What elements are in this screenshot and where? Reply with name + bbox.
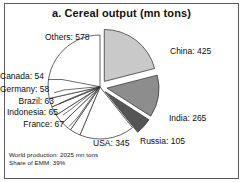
pie-label-china: China: 425 (170, 47, 211, 56)
pie-slice-china (104, 29, 154, 81)
footnote-world-production: World production: 2025 mn tons (9, 151, 98, 159)
pie-label-canada: Canada: 54 (0, 72, 43, 81)
pie-label-germany: Germany: 58 (0, 85, 49, 94)
pie-label-russia: Russia: 105 (140, 137, 185, 146)
chart-footnotes: World production: 2025 mn tons Share of … (9, 151, 98, 168)
pie-label-brazil: Brazil: 63 (0, 97, 54, 106)
pie-slices (48, 29, 159, 139)
pie-label-france: France: 67 (0, 120, 64, 129)
chart-panel: a. Cereal output (mn tons) China: 425 In… (0, 0, 243, 182)
pie-label-india: India: 265 (169, 114, 206, 123)
pie-label-indonesia: Indonesia: 65 (0, 108, 58, 117)
pie-label-usa: USA: 345 (93, 139, 129, 148)
footnote-share-of-emm: Share of EMM: 39% (9, 159, 98, 167)
pie-label-others: Others: 578 (45, 33, 89, 42)
